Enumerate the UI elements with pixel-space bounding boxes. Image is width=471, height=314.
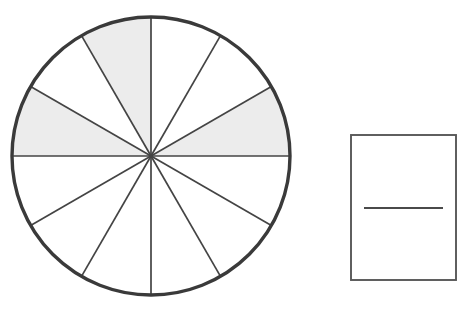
- rectangle-group: [351, 135, 456, 280]
- pie-circle-group: [12, 17, 290, 295]
- fraction-diagram-canvas: [0, 0, 471, 314]
